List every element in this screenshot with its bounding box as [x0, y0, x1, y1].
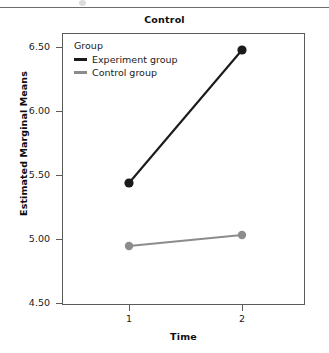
y-axis-tick-3: 5.00: [0, 233, 62, 245]
data-point-experiment-time-1: [124, 178, 133, 187]
legend-label-control-group: Control group: [92, 66, 157, 79]
legend-item-experiment-group: Experiment group: [74, 53, 234, 66]
x-axis-tick-mark-0: [129, 305, 130, 311]
x-axis-title: Time: [62, 331, 305, 342]
chart-page: Control Estimated Marginal Means 6.50 6.…: [0, 0, 329, 353]
legend-label-experiment-group: Experiment group: [92, 53, 178, 66]
page-separator-rule: [0, 7, 329, 8]
legend-line-swatch-control-icon: [74, 71, 87, 73]
x-axis-tick-label-0: 1: [109, 313, 149, 324]
data-point-experiment-time-2: [237, 45, 246, 54]
chart-title: Control: [0, 14, 329, 25]
data-point-control-time-1: [125, 242, 133, 250]
y-axis-tick-label-2: 5.50: [29, 169, 50, 181]
x-axis-tick-mark-1: [242, 305, 243, 311]
legend-title: Group: [74, 40, 234, 52]
y-axis-tick-0: 6.50: [0, 41, 62, 53]
y-axis-tick-label-0: 6.50: [29, 41, 50, 53]
series-line-control-group: [129, 235, 242, 246]
y-axis-tick-4: 4.50: [0, 297, 62, 309]
legend-line-swatch-experiment-icon: [74, 58, 87, 60]
y-axis-title: Estimated Marginal Means: [18, 44, 29, 244]
y-axis-tick-label-1: 6.00: [29, 105, 50, 117]
y-axis-tick-label-3: 5.00: [29, 233, 50, 245]
cropped-glyph-remnant: [79, 0, 86, 6]
y-axis-tick-1: 6.00: [0, 105, 62, 117]
y-axis-tick-2: 5.50: [0, 169, 62, 181]
legend: Group Experiment group Control group: [74, 40, 234, 79]
y-axis-tick-label-4: 4.50: [29, 297, 50, 309]
x-axis-tick-label-1: 2: [222, 313, 262, 324]
legend-item-control-group: Control group: [74, 66, 234, 79]
data-point-control-time-2: [238, 231, 246, 239]
